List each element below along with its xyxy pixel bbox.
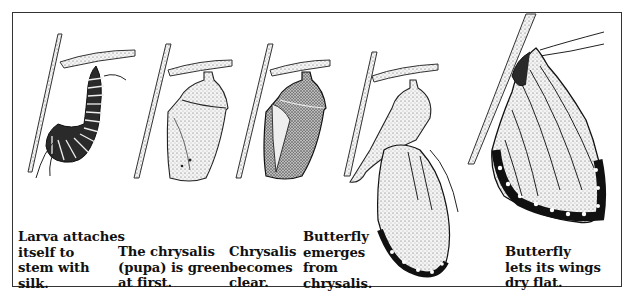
caption-emerging: Butterfly emerges from chrysalis. [303,229,372,291]
larva-illustration [28,34,135,178]
chrysalis-clear-illustration [236,44,330,179]
butterfly-drying-illustration [468,14,604,223]
caption-larva: Larva attaches itself to stem with silk. [18,229,125,291]
caption-chrysalis-clear: Chrysalis becomes clear. [229,244,296,291]
caption-chrysalis-green: The chrysalis (pupa) is green at first. [118,244,230,291]
chrysalis-green-illustration [134,44,232,181]
caption-drying: Butterfly lets its wings dry flat. [505,244,601,291]
